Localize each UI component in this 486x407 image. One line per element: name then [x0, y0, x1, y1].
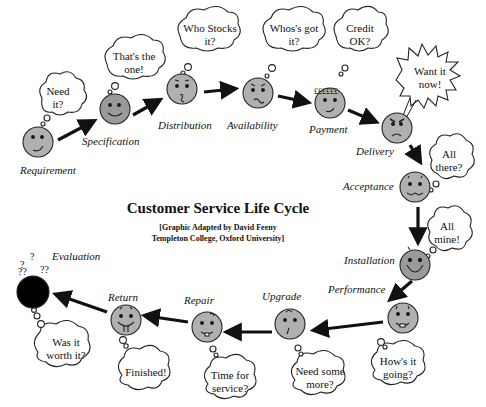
stage-label-return: Return [108, 291, 138, 303]
stage-label-delivery: Delivery [356, 145, 394, 157]
face-evaluation [17, 276, 49, 308]
svg-text:?: ? [30, 251, 35, 262]
stage-label-distribution: Distribution [158, 119, 212, 131]
stage-label-specification: Specification [82, 135, 139, 147]
thought-text-performance: How's itgoing? [375, 355, 421, 381]
diagram-title: Customer Service Life Cycle [118, 200, 318, 217]
svg-text:??: ?? [40, 264, 49, 275]
svg-text:££££££: ££££££ [314, 87, 338, 96]
life-cycle-diagram: ££££££ [0, 0, 486, 407]
diagram-credit: [Graphic Adapted by David Feeny Templeto… [118, 222, 318, 244]
thought-text-requirement: Needit? [44, 85, 72, 111]
face-performance [388, 303, 418, 333]
stage-label-repair: Repair [184, 294, 214, 306]
thought-text-availability: Whos's gotit? [265, 22, 323, 48]
stage-label-upgrade: Upgrade [262, 290, 301, 302]
thought-text-specification: That's theone! [108, 50, 160, 76]
svg-text:?: ? [20, 259, 25, 270]
thought-text-repair: Time forservice? [206, 369, 254, 395]
face-acceptance [400, 172, 430, 202]
stage-label-installation: Installation [344, 254, 395, 266]
arrow-performance-to-upgrade [316, 322, 383, 330]
stage-label-payment: Payment [309, 123, 347, 135]
face-return [111, 305, 141, 335]
face-delivery [382, 113, 412, 143]
face-repair [192, 312, 222, 342]
question-marks: ? ?? ?? ? [18, 251, 49, 277]
stage-label-performance: Performance [328, 283, 385, 295]
arrow-installation-to-performance [392, 281, 412, 298]
stage-label-requirement: Requirement [20, 164, 76, 176]
stage-label-evaluation: Evaluation [52, 250, 100, 262]
thought-text-acceptance: Allthere? [432, 148, 466, 174]
face-requirement [23, 127, 53, 157]
thought-text-payment: CreditOK? [338, 22, 382, 48]
face-payment: ££££££ [314, 87, 345, 118]
arrow-repair-to-return [147, 316, 188, 322]
face-upgrade [275, 309, 305, 339]
stage-label-acceptance: Acceptance [343, 180, 394, 192]
thought-text-evaluation: Was itworth it? [40, 336, 92, 362]
face-specification [100, 94, 130, 124]
thought-text-upgrade: Need somemore? [292, 365, 348, 391]
arrow-specification-to-distribution [133, 101, 158, 115]
face-distribution [167, 74, 197, 104]
arrow-availability-to-payment [278, 96, 306, 102]
thought-text-return: Finished! [122, 366, 170, 379]
arrow-payment-to-delivery [348, 110, 374, 121]
thought-text-delivery: Want itnow! [410, 65, 450, 91]
face-installation [400, 247, 430, 280]
thought-text-distribution: Who Stocksit? [181, 22, 239, 48]
arrow-distribution-to-availability [204, 89, 233, 92]
arrow-return-to-evaluation [58, 295, 107, 312]
thought-text-installation: Allmine! [430, 220, 464, 246]
face-availability [243, 78, 273, 108]
stage-label-availability: Availability [227, 119, 278, 131]
arrow-delivery-to-acceptance [410, 145, 419, 160]
